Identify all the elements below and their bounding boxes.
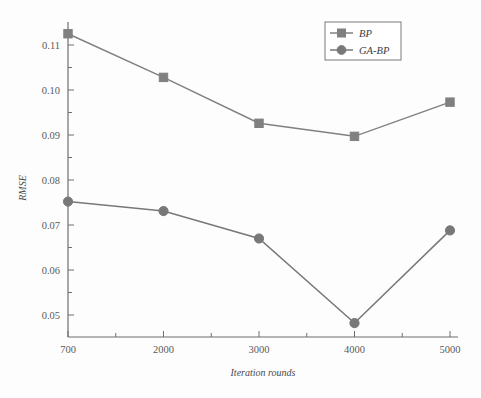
legend-label: GA-BP — [359, 45, 390, 56]
y-tick-label: 0.08 — [42, 175, 60, 186]
legend-circle-marker — [337, 46, 346, 55]
legend-label: BP — [359, 28, 372, 39]
data-point-marker[interactable] — [63, 197, 72, 206]
data-point-marker[interactable] — [159, 73, 167, 81]
x-axis-title: Iteration rounds — [230, 367, 296, 378]
x-tick-label: 5000 — [440, 344, 461, 355]
legend-square-marker — [338, 29, 346, 37]
series-ga-bp — [63, 197, 454, 328]
data-point-marker[interactable] — [64, 30, 72, 38]
x-axis-ticks: 7002000300040005000 — [60, 331, 460, 355]
y-tick-label: 0.05 — [42, 310, 60, 321]
x-tick-label: 700 — [60, 344, 76, 355]
x-tick-label: 4000 — [344, 344, 365, 355]
data-point-marker[interactable] — [254, 234, 263, 243]
y-tick-label: 0.11 — [42, 40, 60, 51]
data-point-marker[interactable] — [446, 98, 454, 106]
data-point-marker[interactable] — [159, 206, 168, 215]
y-tick-label: 0.07 — [42, 220, 60, 231]
data-point-marker[interactable] — [350, 132, 358, 140]
axes-group — [68, 22, 458, 337]
y-tick-label: 0.06 — [42, 265, 60, 276]
x-tick-label: 2000 — [153, 344, 174, 355]
y-tick-label: 0.10 — [42, 85, 60, 96]
y-axis-ticks: 0.050.060.070.080.090.100.11 — [42, 40, 74, 321]
y-axis-title: RMSE — [17, 175, 28, 202]
series-line — [68, 202, 450, 324]
legend-item-ga-bp[interactable]: GA-BP — [330, 45, 390, 56]
chart-legend[interactable]: BPGA-BP — [325, 22, 401, 60]
data-point-marker[interactable] — [445, 226, 454, 235]
data-point-marker[interactable] — [350, 319, 359, 328]
x-tick-label: 3000 — [249, 344, 270, 355]
rmse-iteration-chart: 0.050.060.070.080.090.100.11 70020003000… — [0, 0, 481, 398]
series-layer — [63, 30, 454, 328]
y-tick-label: 0.09 — [42, 130, 60, 141]
data-point-marker[interactable] — [255, 119, 263, 127]
chart-canvas: 0.050.060.070.080.090.100.11 70020003000… — [0, 0, 481, 398]
